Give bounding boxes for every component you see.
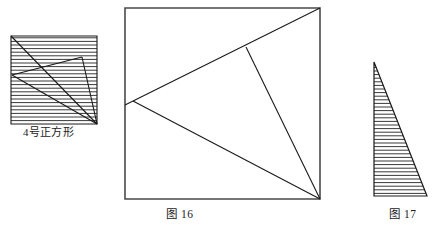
left-square-figure <box>9 36 99 124</box>
geometry-figure-canvas <box>0 0 447 232</box>
construction-line <box>11 36 97 124</box>
middle-square-inner-lines <box>125 8 320 199</box>
construction-line <box>246 47 320 199</box>
middle-square-figure <box>125 8 320 199</box>
left-square-hatching <box>9 38 99 121</box>
middle-square-outline <box>125 8 320 199</box>
construction-line <box>125 8 320 105</box>
right-triangle-figure <box>372 62 429 196</box>
middle-figure-caption: 图 16 <box>166 209 193 221</box>
construction-line <box>133 101 320 199</box>
left-figure-caption: 4号正方形 <box>23 127 74 138</box>
right-figure-caption: 图 17 <box>389 209 416 221</box>
left-square-inner-lines <box>11 36 97 124</box>
